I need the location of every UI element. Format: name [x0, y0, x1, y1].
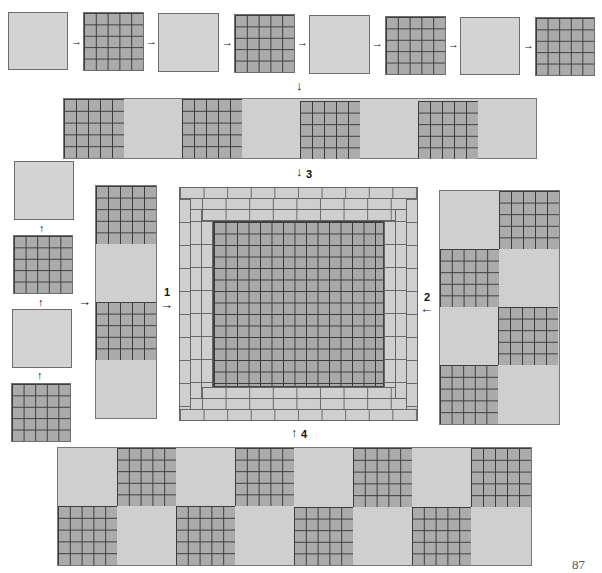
top-block-3: [158, 13, 219, 72]
top-block-7: [460, 17, 520, 75]
top-block-4: [234, 14, 295, 73]
arrow-down-icon: ↓: [296, 166, 303, 177]
panel-block: [235, 448, 294, 506]
strip-block: [418, 101, 478, 159]
arrow-right-icon: →: [297, 37, 308, 48]
step-label-4: 4: [301, 428, 307, 440]
arrow-up-icon: ↑: [37, 370, 43, 381]
panel-block: [440, 365, 498, 424]
strip-block: [182, 99, 242, 158]
strip-block: [300, 101, 360, 159]
center-field: [179, 187, 418, 421]
border-ring-1-bottom: [180, 409, 417, 420]
top-block-6: [385, 16, 446, 75]
panel-block: [117, 448, 176, 506]
panel-block: [471, 448, 531, 507]
top-block-1: [8, 12, 68, 70]
left-block-3: [12, 309, 72, 368]
panel-block: [294, 507, 353, 565]
panel-block: [412, 507, 471, 565]
border-ring-3-right: [384, 221, 395, 387]
border-ring-1-top: [180, 188, 417, 199]
arrow-left-icon: ←: [420, 303, 433, 314]
panel-block: [353, 448, 412, 507]
strip-block: [64, 99, 124, 158]
border-ring-1-left: [180, 199, 191, 409]
arrow-right-icon: →: [160, 299, 173, 310]
center-grid: [213, 221, 384, 387]
arrow-right-icon: →: [71, 36, 82, 47]
panel-block: [176, 506, 235, 565]
strip-block: [96, 302, 156, 360]
border-ring-2-bottom: [191, 398, 406, 409]
arrow-right-icon: →: [222, 37, 233, 48]
panel-block: [499, 191, 559, 249]
border-ring-2-top: [191, 199, 406, 210]
border-ring-2-left: [191, 210, 202, 398]
panel-block: [58, 506, 117, 565]
arrow-right-icon: →: [372, 38, 383, 49]
panel-block: [440, 249, 499, 307]
arrow-up-icon: ↑: [38, 297, 44, 308]
top-strip: [63, 98, 537, 159]
left-strip: [95, 185, 157, 419]
step-label-3: 3: [306, 168, 312, 180]
border-ring-3-bottom: [202, 387, 395, 398]
bottom-panel: [57, 447, 532, 566]
arrow-right-icon: →: [78, 296, 91, 307]
right-panel: [439, 190, 560, 425]
left-block-4: [11, 383, 71, 442]
panel-block: [498, 307, 558, 365]
strip-block: [96, 186, 156, 244]
left-block-2: [13, 235, 73, 294]
arrow-up-icon: ↑: [39, 223, 45, 234]
arrow-right-icon: →: [523, 40, 534, 51]
border-ring-3-left: [202, 221, 213, 387]
top-block-2: [83, 12, 144, 71]
arrow-right-icon: →: [146, 36, 157, 47]
arrow-up-icon: ↑: [291, 427, 298, 438]
page-number: 87: [572, 557, 585, 573]
left-block-1: [14, 161, 74, 220]
arrow-right-icon: →: [448, 39, 459, 50]
border-ring-2-right: [395, 210, 406, 398]
top-block-5: [309, 15, 370, 74]
arrow-down-icon: ↓: [296, 80, 303, 91]
border-ring-1-right: [406, 199, 417, 409]
top-block-8: [535, 17, 595, 76]
border-ring-3-top: [202, 210, 395, 221]
